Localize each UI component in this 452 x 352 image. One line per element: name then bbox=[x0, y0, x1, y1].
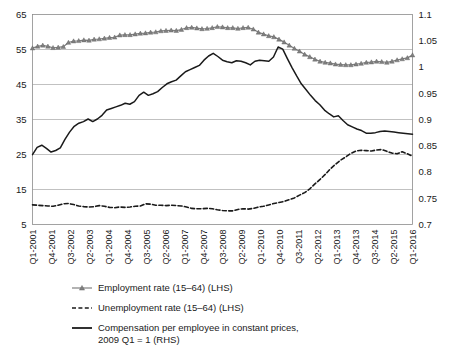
left-axis-tick-label: 5 bbox=[21, 219, 26, 230]
legend-label-compensation-per-employee: Compensation per employee in constant pr… bbox=[98, 322, 299, 333]
x-axis-tick-label: Q2-2006 bbox=[161, 230, 171, 265]
legend-label2-compensation-per-employee: 2009 Q1 = 1 (RHS) bbox=[98, 334, 180, 345]
x-axis-tick-label: Q4-2010 bbox=[275, 230, 285, 265]
x-axis-tick-label: Q1-2010 bbox=[256, 230, 266, 265]
right-axis-tick-label: 0.9 bbox=[419, 114, 432, 125]
right-axis-tick-label: 1.05 bbox=[419, 35, 438, 46]
x-axis-tick-label: Q4-2013 bbox=[351, 230, 361, 265]
right-axis-tick-label: 0.75 bbox=[419, 193, 438, 204]
x-axis-tick-label: Q1-2016 bbox=[408, 230, 418, 265]
x-axis-tick-label: Q3-2008 bbox=[218, 230, 228, 265]
legend-label-unemployment-rate: Unemployment rate (15–64) (LHS) bbox=[98, 302, 244, 313]
x-axis-tick-label: Q2-2003 bbox=[85, 230, 95, 265]
x-axis-tick-label: Q2-2015 bbox=[389, 230, 399, 265]
left-axis-tick-label: 55 bbox=[16, 44, 27, 55]
left-axis-tick-label: 45 bbox=[16, 79, 27, 90]
x-axis-tick-label: Q1-2013 bbox=[332, 230, 342, 265]
x-axis-tick-label: Q4-2004 bbox=[123, 230, 133, 265]
x-axis-tick-label: Q2-2009 bbox=[237, 230, 247, 265]
legend-item-unemployment-rate: Unemployment rate (15–64) (LHS) bbox=[72, 302, 244, 313]
x-axis-tick-label: Q3-2014 bbox=[370, 230, 380, 265]
legend-label-employment-rate: Employment rate (15–64) (LHS) bbox=[98, 282, 233, 293]
right-axis-tick-label: 0.85 bbox=[419, 140, 438, 151]
x-axis-tick-label: Q1-2004 bbox=[104, 230, 114, 265]
chart-svg: 5152535455565 0.70.750.80.850.90.9511.05… bbox=[0, 0, 452, 352]
left-axis-tick-label: 65 bbox=[16, 9, 27, 20]
x-axis-tick-label: Q2-2012 bbox=[313, 230, 323, 265]
chart-container: 5152535455565 0.70.750.80.850.90.9511.05… bbox=[0, 0, 452, 352]
x-axis-tick-label: Q3-2005 bbox=[142, 230, 152, 265]
right-axis-tick-label: 0.8 bbox=[419, 166, 432, 177]
x-axis-tick-label: Q3-2002 bbox=[66, 230, 76, 265]
right-axis-tick-label: 1.1 bbox=[419, 9, 432, 20]
x-axis-tick-label: Q4-2007 bbox=[199, 230, 209, 265]
right-axis-tick-label: 0.7 bbox=[419, 219, 432, 230]
chart-background bbox=[0, 0, 452, 352]
x-axis-tick-label: Q1-2001 bbox=[28, 230, 38, 265]
left-axis-tick-label: 25 bbox=[16, 149, 27, 160]
left-axis-tick-label: 35 bbox=[16, 114, 27, 125]
x-axis-tick-label: Q4-2001 bbox=[47, 230, 57, 265]
left-axis-tick-label: 15 bbox=[16, 184, 27, 195]
x-axis-tick-label: Q3-2011 bbox=[294, 230, 304, 264]
right-axis-tick-label: 0.95 bbox=[419, 88, 438, 99]
x-axis-tick-label: Q1-2007 bbox=[180, 230, 190, 265]
x-axis-ticks: Q1-2001Q4-2001Q3-2002Q2-2003Q1-2004Q4-20… bbox=[28, 230, 418, 265]
right-axis-tick-label: 1 bbox=[419, 61, 424, 72]
